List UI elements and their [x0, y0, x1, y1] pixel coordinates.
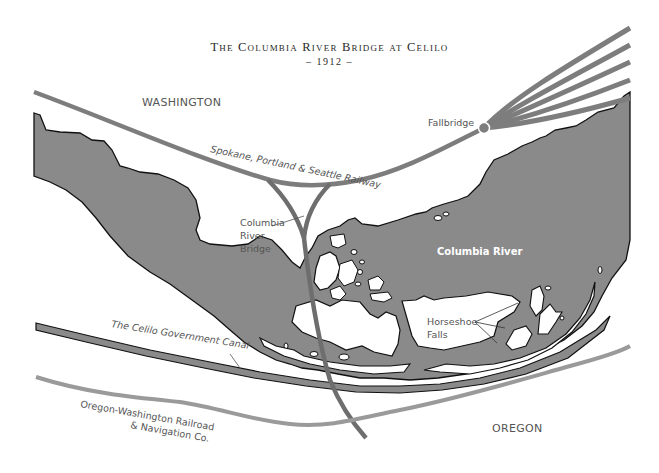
- island-islet-2: [360, 260, 365, 264]
- label-horseshoe-1: Horseshoe: [427, 316, 477, 327]
- label-bridge-3: Bridge: [240, 243, 271, 254]
- columbia-river-bridge-east-branch: [304, 184, 330, 238]
- label-horseshoe-2: Falls: [427, 329, 448, 340]
- island-islet-3: [358, 270, 363, 275]
- island-islet-8: [310, 352, 318, 357]
- island-islet-1: [351, 250, 357, 255]
- label-bridge-1: Columbia: [240, 217, 285, 228]
- island-islet-4: [355, 282, 361, 286]
- label-columbia-river: Columbia River: [437, 246, 522, 257]
- label-bridge-2: River: [240, 230, 265, 241]
- columbia-river-bridge-west-branch: [268, 180, 304, 238]
- island-islet-9: [339, 354, 349, 360]
- island-islet-6: [443, 212, 449, 216]
- map-subtitle: – 1912 –: [0, 56, 659, 67]
- map-title: The Columbia River Bridge at Celilo: [0, 40, 659, 55]
- island-islet-11: [560, 316, 564, 320]
- island-islet-12: [598, 267, 602, 274]
- map-canvas: WASHINGTON OREGON Fallbridge Spokane, Po…: [0, 0, 659, 473]
- island-islet-5: [434, 216, 442, 221]
- island-islet-10: [545, 286, 551, 290]
- map-celilo-bridge: The Columbia River Bridge at Celilo – 19…: [0, 0, 659, 473]
- label-fallbridge: Fallbridge: [428, 117, 474, 128]
- label-oregon: OREGON: [492, 422, 542, 435]
- label-washington: WASHINGTON: [142, 96, 221, 109]
- fallbridge-station: [479, 123, 490, 134]
